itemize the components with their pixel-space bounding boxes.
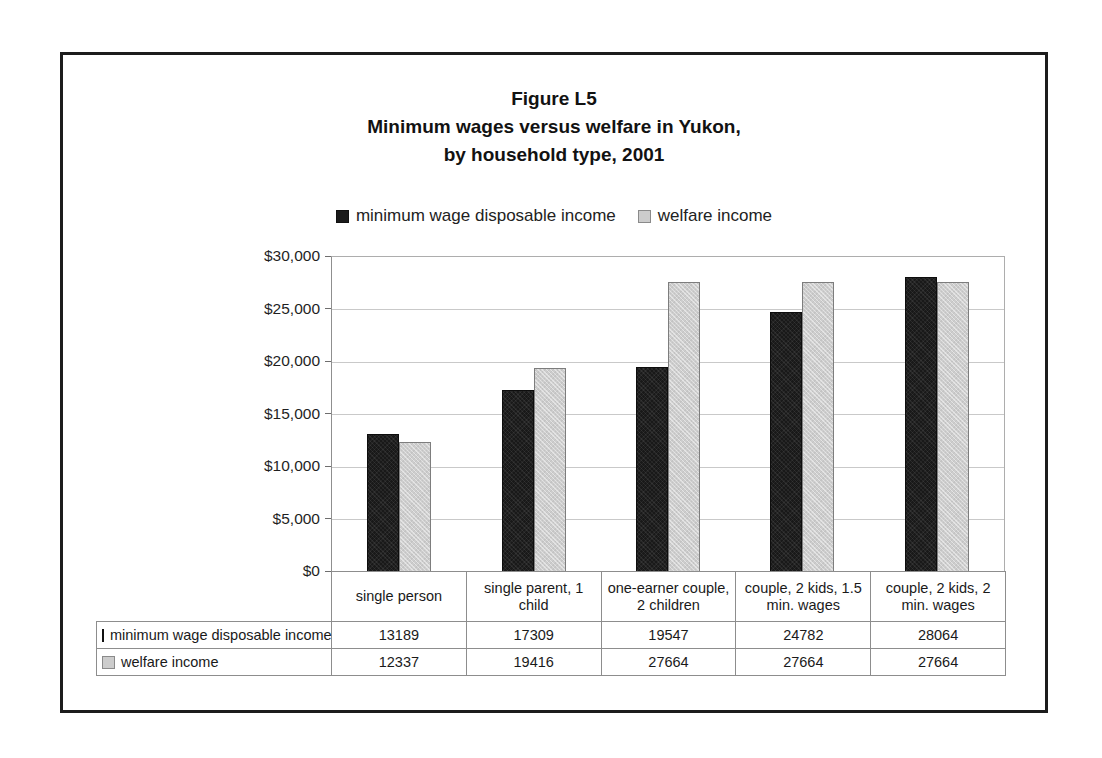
bar-welfare[interactable]	[937, 282, 969, 572]
table-cell-r1-c3: 27664	[736, 649, 871, 676]
table-series-label-0: minimum wage disposable income	[110, 627, 332, 643]
legend-label-minimum-wage: minimum wage disposable income	[356, 206, 616, 226]
bar-group	[870, 257, 1004, 572]
table-cell-r1-c2: 27664	[601, 649, 736, 676]
legend-entry-welfare: welfare income	[638, 206, 772, 226]
table-cell-r0-c2: 19547	[601, 622, 736, 649]
table-row-categories: single person single parent, 1 child one…	[97, 572, 1006, 622]
y-axis-tick	[325, 308, 331, 309]
bar-group	[601, 257, 735, 572]
bar-minimum-wage[interactable]	[636, 367, 668, 572]
plot-wrapper: $0$5,000$10,000$15,000$20,000$25,000$30,…	[331, 256, 1005, 573]
y-axis-tick	[325, 361, 331, 362]
category-header-1: single parent, 1 child	[466, 572, 601, 622]
y-axis-tick	[325, 256, 331, 257]
table-cell-r0-c3: 24782	[736, 622, 871, 649]
bar-welfare[interactable]	[668, 282, 700, 572]
table-corner-cell	[97, 572, 332, 622]
bar-minimum-wage[interactable]	[770, 312, 802, 572]
table-series-label-cell-1: welfare income	[97, 649, 332, 676]
table-cell-r0-c4: 28064	[871, 622, 1006, 649]
bar-group	[735, 257, 869, 572]
table-cell-r1-c4: 27664	[871, 649, 1006, 676]
legend-swatch-dark-icon	[336, 210, 349, 223]
y-axis-tick-label: $15,000	[264, 405, 320, 423]
category-header-0: single person	[332, 572, 467, 622]
legend-label-welfare: welfare income	[658, 206, 772, 226]
table-row: welfare income 12337 19416 27664 27664 2…	[97, 649, 1006, 676]
bar-welfare[interactable]	[534, 368, 566, 572]
y-axis-tick-label: $5,000	[273, 510, 320, 528]
chart-title-line-3: by household type, 2001	[63, 141, 1045, 169]
y-axis-tick	[325, 413, 331, 414]
bar-minimum-wage[interactable]	[502, 390, 534, 572]
table-cell-r0-c0: 13189	[332, 622, 467, 649]
bar-welfare[interactable]	[802, 282, 834, 572]
table-cell-r1-c0: 12337	[332, 649, 467, 676]
data-table-body: single person single parent, 1 child one…	[97, 572, 1006, 676]
bar-group	[332, 257, 466, 572]
chart-title: Figure L5 Minimum wages versus welfare i…	[63, 85, 1045, 169]
y-axis-tick-label: $10,000	[264, 457, 320, 475]
bar-welfare[interactable]	[399, 442, 431, 572]
y-axis-tick-label: $30,000	[264, 247, 320, 265]
chart-legend: minimum wage disposable income welfare i…	[63, 206, 1045, 226]
table-series-label-1: welfare income	[121, 654, 219, 670]
y-axis-tick	[325, 518, 331, 519]
table-series-label-cell-0: minimum wage disposable income	[97, 622, 332, 649]
plot-area	[331, 256, 1005, 573]
legend-entry-minimum-wage: minimum wage disposable income	[336, 206, 616, 226]
category-header-3: couple, 2 kids, 1.5 min. wages	[736, 572, 871, 622]
bar-minimum-wage[interactable]	[905, 277, 937, 572]
y-axis-tick-label: $25,000	[264, 300, 320, 318]
y-axis-tick-label: $20,000	[264, 352, 320, 370]
chart-title-line-1: Figure L5	[63, 85, 1045, 113]
table-cell-r0-c1: 17309	[466, 622, 601, 649]
table-cell-r1-c1: 19416	[466, 649, 601, 676]
table-swatch-dark-icon	[102, 629, 104, 642]
table-swatch-light-icon	[102, 656, 115, 669]
chart-data-table: single person single parent, 1 child one…	[96, 571, 1006, 676]
y-axis-tick	[325, 466, 331, 467]
legend-swatch-light-icon	[638, 210, 651, 223]
chart-title-line-2: Minimum wages versus welfare in Yukon,	[63, 113, 1045, 141]
bar-group	[466, 257, 600, 572]
category-header-2: one-earner couple, 2 children	[601, 572, 736, 622]
bar-minimum-wage[interactable]	[367, 434, 399, 572]
figure-frame: Figure L5 Minimum wages versus welfare i…	[60, 52, 1048, 713]
category-header-4: couple, 2 kids, 2 min. wages	[871, 572, 1006, 622]
table-row: minimum wage disposable income 13189 173…	[97, 622, 1006, 649]
